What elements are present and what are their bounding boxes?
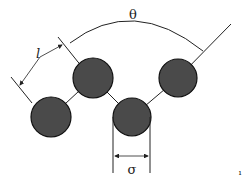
angle-label: θ [129,7,137,22]
bond-length-tick-top [58,37,78,62]
bond-length-arrow-b [40,45,62,57]
bond-length-tick-bottom [11,77,32,103]
bead-4 [159,59,197,97]
bead-3 [113,98,151,136]
stray-mark: ı [239,168,242,176]
bead-1 [31,97,71,137]
bead-2 [73,58,113,98]
bond-length-arrow-a [20,57,40,85]
diameter-label: σ [128,162,137,176]
chain-diagram: θ l σ ı [0,0,244,176]
diagram-svg: θ l σ ı [0,0,244,176]
angle-arc [70,21,203,51]
bond-length-label: l [36,46,40,61]
beads [31,58,197,137]
